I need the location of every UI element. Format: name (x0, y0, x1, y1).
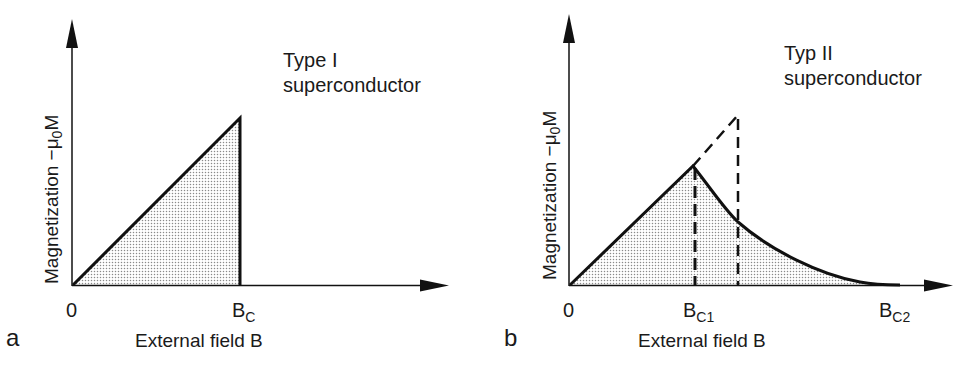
panel-b: Typ II superconductor Magnetization −μ0M… (504, 14, 953, 351)
panel-b-x-axis-label: External field B (638, 330, 766, 351)
superconductor-magnetization-figure: Type I superconductor Magnetization −μ0M… (0, 0, 963, 371)
panel-b-tick-bc2: BC2 (879, 299, 910, 325)
type2-magnetization-area (570, 166, 900, 285)
x-axis-arrow-icon (420, 280, 449, 292)
x-axis-arrow-icon (924, 280, 953, 292)
panel-a-x-axis-label: External field B (135, 330, 263, 351)
panel-b-y-axis-label: Magnetization −μ0M (539, 111, 563, 280)
panel-a-tick-bc: BC (232, 299, 255, 325)
panel-b-label: b (504, 324, 517, 351)
panel-b-title-line1: Typ II (784, 42, 833, 64)
panel-b-tick-0: 0 (563, 299, 574, 321)
panel-a-y-axis-label: Magnetization −μ0M (41, 115, 65, 284)
y-axis-arrow-icon (563, 14, 575, 43)
panel-a-tick-0: 0 (66, 299, 77, 321)
panel-a: Type I superconductor Magnetization −μ0M… (6, 19, 449, 351)
panel-a-title-line2: superconductor (283, 74, 421, 96)
panel-b-title-line2: superconductor (784, 67, 922, 89)
panel-a-label: a (6, 324, 20, 351)
panel-a-title-line1: Type I (283, 49, 337, 71)
y-axis-arrow-icon (66, 19, 78, 48)
panel-b-tick-bc1: BC1 (683, 299, 714, 325)
